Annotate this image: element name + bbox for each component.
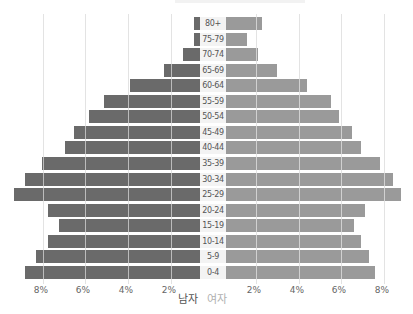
gridline-overlay (299, 141, 300, 154)
gridline-overlay (256, 95, 257, 108)
female-bar (226, 126, 352, 139)
gridline-overlay (341, 157, 342, 170)
gridline-overlay (299, 173, 300, 186)
age-group-row: 5-9 (0, 250, 413, 263)
female-bar (226, 157, 380, 170)
age-group-row: 0-4 (0, 266, 413, 279)
age-group-label: 80+ (200, 17, 226, 30)
gridline-overlay (256, 79, 257, 92)
gridline-overlay (171, 188, 172, 201)
age-group-label: 15-19 (200, 219, 226, 232)
female-bar (226, 79, 307, 92)
gridline-overlay (256, 188, 257, 201)
age-group-label: 0-4 (200, 266, 226, 279)
male-bar (25, 173, 200, 186)
age-group-label: 25-29 (200, 188, 226, 201)
gridline-overlay (256, 250, 257, 263)
gridline-overlay (256, 48, 257, 61)
gridline-overlay (171, 95, 172, 108)
age-group-label: 10-14 (200, 235, 226, 248)
age-group-row: 70-74 (0, 48, 413, 61)
gridline-overlay (256, 173, 257, 186)
legend-male-label: 남자 (178, 290, 198, 306)
age-group-label: 70-74 (200, 48, 226, 61)
age-group-row: 45-49 (0, 126, 413, 139)
gridline-overlay (128, 157, 129, 170)
age-group-row: 20-24 (0, 204, 413, 217)
age-group-label: 55-59 (200, 95, 226, 108)
gridline-overlay (171, 204, 172, 217)
male-bar (104, 95, 200, 108)
female-bar (226, 219, 354, 232)
gridline-overlay (43, 173, 44, 186)
age-group-row: 75-79 (0, 33, 413, 46)
female-bar (226, 173, 393, 186)
female-bar (226, 33, 247, 46)
female-bar (226, 188, 401, 201)
gridline-overlay (171, 235, 172, 248)
female-bar (226, 64, 277, 77)
gridline-overlay (128, 235, 129, 248)
gridline-overlay (85, 266, 86, 279)
age-group-row: 40-44 (0, 141, 413, 154)
gridline-overlay (341, 219, 342, 232)
gridline-overlay (171, 173, 172, 186)
gridline-overlay (256, 204, 257, 217)
age-group-label: 50-54 (200, 110, 226, 123)
gridline-overlay (171, 126, 172, 139)
age-group-label: 20-24 (200, 204, 226, 217)
age-group-row: 35-39 (0, 157, 413, 170)
gridline-overlay (299, 266, 300, 279)
x-tick-label: 8% (375, 285, 389, 295)
age-group-label: 75-79 (200, 33, 226, 46)
gridline-overlay (85, 219, 86, 232)
age-group-label: 45-49 (200, 126, 226, 139)
gridline-overlay (341, 126, 342, 139)
male-bar (59, 219, 200, 232)
gridline-overlay (299, 110, 300, 123)
gridline-overlay (85, 188, 86, 201)
age-group-label: 35-39 (200, 157, 226, 170)
gridline-overlay (171, 110, 172, 123)
gridline-overlay (384, 173, 385, 186)
gridline-overlay (299, 235, 300, 248)
gridline-overlay (85, 141, 86, 154)
gridline-overlay (384, 188, 385, 201)
x-tick-label: 4% (119, 285, 133, 295)
gridline-overlay (128, 173, 129, 186)
gridline-overlay (171, 141, 172, 154)
age-group-row: 80+ (0, 17, 413, 30)
male-bar (48, 235, 200, 248)
male-bar (183, 48, 200, 61)
female-bar (226, 95, 331, 108)
gridline-overlay (171, 250, 172, 263)
gridline-overlay (171, 64, 172, 77)
gridline-overlay (299, 250, 300, 263)
gridline-overlay (128, 95, 129, 108)
gridline-overlay (128, 141, 129, 154)
male-bar (130, 79, 200, 92)
legend-female-label: 여자 (207, 290, 227, 306)
age-group-row: 50-54 (0, 110, 413, 123)
gridline-overlay (43, 266, 44, 279)
gridline-overlay (256, 235, 257, 248)
gridline-overlay (85, 204, 86, 217)
gridline-overlay (299, 157, 300, 170)
female-bar (226, 204, 365, 217)
gridline-overlay (85, 157, 86, 170)
age-group-label: 60-64 (200, 79, 226, 92)
gridline-overlay (171, 266, 172, 279)
age-group-row: 30-34 (0, 173, 413, 186)
male-bar (48, 204, 200, 217)
gridline-overlay (299, 126, 300, 139)
age-group-label: 40-44 (200, 141, 226, 154)
gridline-overlay (128, 204, 129, 217)
gridline-overlay (256, 141, 257, 154)
age-group-row: 55-59 (0, 95, 413, 108)
x-tick-label: 2% (162, 285, 176, 295)
gridline-overlay (256, 126, 257, 139)
gridline-overlay (128, 126, 129, 139)
age-group-row: 60-64 (0, 79, 413, 92)
population-pyramid-chart: 80+75-7970-7465-6960-6455-5950-5445-4940… (0, 0, 413, 314)
female-bar (226, 250, 369, 263)
